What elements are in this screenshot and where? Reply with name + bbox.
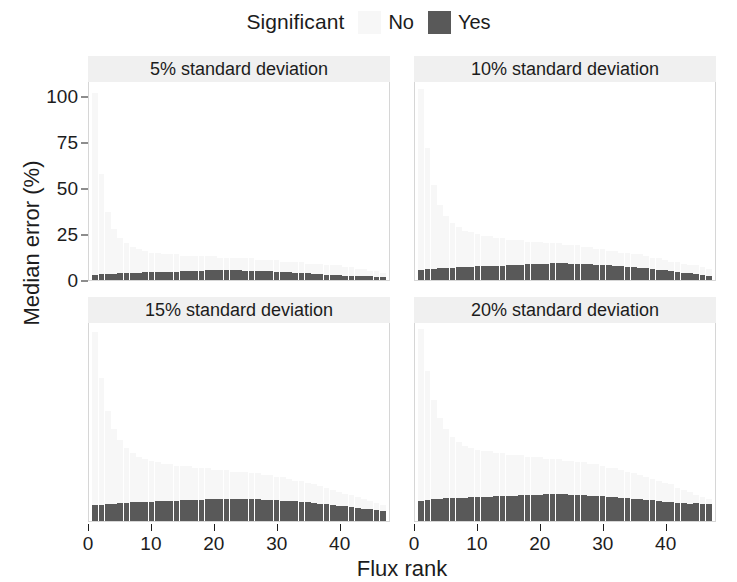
bar: [668, 502, 674, 521]
bar: [456, 267, 462, 280]
bar: [192, 500, 198, 521]
bar: [205, 499, 211, 521]
bar: [500, 496, 506, 521]
plot-inner: [415, 323, 715, 521]
bar: [425, 269, 431, 280]
bar: [593, 496, 599, 521]
facet-strip-label: 5% standard deviation: [150, 59, 328, 80]
facet-panel: 5% standard deviation: [88, 56, 390, 281]
bar: [230, 270, 236, 280]
bar: [700, 504, 706, 521]
x-axis-tick-label: 40: [655, 533, 676, 555]
y-axis-tick-label: 75: [8, 132, 78, 154]
bar: [305, 273, 311, 280]
bar: [99, 505, 105, 521]
facet-strip: 15% standard deviation: [88, 297, 390, 323]
bar: [475, 266, 481, 280]
bar: [292, 501, 298, 521]
bar: [305, 502, 311, 521]
bar: [506, 496, 512, 521]
bar: [556, 263, 562, 280]
bar: [361, 509, 367, 521]
legend-swatch-yes: [428, 11, 451, 34]
bar: [317, 504, 323, 521]
bar: [186, 271, 192, 280]
bar: [618, 266, 624, 280]
bar: [443, 498, 449, 521]
bar: [687, 504, 693, 521]
bar: [374, 277, 380, 280]
bar: [437, 499, 443, 521]
bar: [493, 496, 499, 521]
bar: [380, 277, 386, 280]
bar: [437, 268, 443, 280]
bar: [450, 498, 456, 521]
bar: [587, 264, 593, 280]
bar: [656, 501, 662, 521]
bar: [130, 273, 136, 280]
bar: [230, 499, 236, 521]
bar: [562, 494, 568, 521]
bar: [681, 273, 687, 280]
bar: [249, 271, 255, 280]
legend-label-yes: Yes: [458, 11, 491, 34]
y-axis-tick-mark: [81, 96, 88, 97]
bar: [374, 510, 380, 521]
bar: [355, 276, 361, 280]
bar: [525, 264, 531, 280]
bar: [650, 500, 656, 521]
y-axis-tick-mark: [81, 142, 88, 143]
chart-figure: Significant No Yes Median error (%) 0255…: [0, 0, 737, 582]
bar: [531, 495, 537, 521]
bar: [487, 266, 493, 280]
bar: [687, 273, 693, 280]
x-axis: 010203040: [414, 524, 716, 558]
bar: [267, 271, 273, 280]
bar: [267, 500, 273, 521]
bar: [618, 498, 624, 521]
facet-strip-label: 10% standard deviation: [471, 59, 659, 80]
bar: [211, 499, 217, 521]
bar: [180, 271, 186, 280]
bar: [274, 272, 280, 280]
bar: [468, 267, 474, 280]
bar: [631, 499, 637, 521]
bar: [643, 500, 649, 521]
bar: [600, 265, 606, 280]
bar: [342, 506, 348, 521]
x-axis-tick-mark: [477, 524, 478, 531]
bar: [481, 266, 487, 280]
bar: [311, 503, 317, 521]
bar: [643, 268, 649, 280]
bar: [92, 505, 98, 521]
x-axis-tick-label: 30: [592, 533, 613, 555]
bar: [299, 273, 305, 280]
x-axis-title: Flux rank: [88, 556, 716, 582]
y-axis-tick-label: 0: [8, 270, 78, 292]
bar: [612, 266, 618, 280]
bar: [236, 270, 242, 280]
x-axis-tick-mark: [666, 524, 667, 531]
bar: [124, 273, 130, 280]
bar: [462, 267, 468, 280]
bar: [656, 270, 662, 280]
x-axis-tick-mark: [414, 524, 415, 531]
legend-swatch-no: [358, 11, 381, 34]
plot-area: [414, 323, 716, 522]
x-axis-tick-label: 0: [83, 533, 94, 555]
bar: [556, 494, 562, 521]
bar: [211, 270, 217, 280]
bar: [531, 264, 537, 280]
bar: [543, 494, 549, 521]
bar: [668, 271, 674, 280]
bar: [525, 495, 531, 521]
facet-panel-grid: 5% standard deviation10% standard deviat…: [88, 56, 716, 522]
facet-panel: 15% standard deviation: [88, 297, 390, 522]
bar: [493, 266, 499, 280]
bar: [274, 500, 280, 521]
bar: [286, 501, 292, 521]
x-axis-tick-mark: [540, 524, 541, 531]
bar: [625, 498, 631, 521]
y-axis-tick-label: 25: [8, 224, 78, 246]
bar: [330, 505, 336, 521]
